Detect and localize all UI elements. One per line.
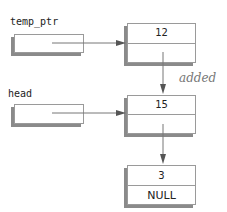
arrowhead-down-icon — [160, 154, 166, 164]
arrowhead-right-icon — [116, 110, 126, 116]
arrows-layer — [0, 0, 227, 212]
arrowhead-right-icon — [116, 40, 126, 46]
arrowhead-down-icon — [160, 84, 166, 94]
